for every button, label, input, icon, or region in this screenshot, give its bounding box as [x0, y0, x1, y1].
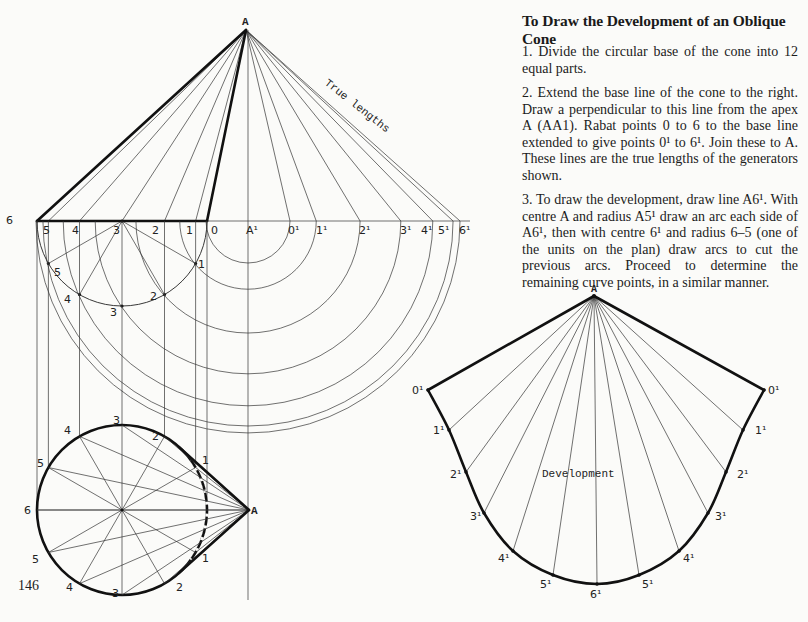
development-point-11	[741, 428, 745, 432]
plan-centre	[120, 508, 123, 511]
true-length-line-1	[246, 30, 316, 221]
development-left-label-2: 2¹	[450, 468, 461, 481]
plan-apex-label: A	[251, 505, 258, 517]
plan-top-label-1: 1	[202, 454, 209, 467]
development-point-9	[706, 511, 710, 515]
development-generator-7	[594, 296, 639, 575]
true-length-line-4	[246, 30, 433, 221]
true-length-label-6: 6¹	[459, 224, 470, 237]
oblique-cone-drawing: A6543210A¹0¹1¹2¹3¹4¹5¹6¹True lengths5432…	[0, 0, 808, 622]
plan-tangent-bottom	[179, 510, 249, 573]
semicircle-label-4: 4	[64, 293, 71, 306]
development-right-label-1: 1¹	[755, 424, 766, 437]
generator-line-2	[165, 30, 247, 221]
development-edge-left	[428, 296, 594, 390]
development-point-4	[511, 549, 515, 553]
development-generator-2	[466, 296, 594, 472]
elevation-apex-label: A	[242, 16, 249, 28]
base-point-label-1: 1	[186, 224, 193, 237]
development-point-0	[426, 388, 430, 392]
base-point-label-0: 0	[211, 224, 218, 237]
base-point-label-3: 3	[113, 224, 120, 237]
development-left-label-3: 3¹	[470, 510, 481, 523]
plan-view	[37, 425, 249, 595]
development-point-7	[637, 573, 641, 577]
plan-top-label-6: 6	[24, 504, 31, 517]
plan-bottom-label-3: 3	[112, 587, 119, 600]
semicircle-label-1: 1	[198, 258, 205, 271]
plan-bottom-label-5: 5	[32, 553, 39, 566]
true-length-line-6	[246, 30, 460, 221]
textbook-page: To Draw the Development of an Oblique Co…	[0, 0, 808, 622]
base-point-label-5: 5	[43, 224, 50, 237]
plan-generator-5	[48, 510, 249, 553]
plan-bottom-label-2: 2	[176, 581, 183, 594]
development-left-label-4: 4¹	[498, 552, 509, 565]
development-left-label-5: 5¹	[540, 578, 551, 591]
true-lengths-annotation: True lengths	[322, 77, 392, 135]
development-point-8	[677, 549, 681, 553]
development-apex-label: A	[591, 284, 597, 295]
true-length-label-5: 5¹	[438, 224, 449, 237]
development-left-label-1: 1¹	[433, 424, 444, 437]
development-left-label-0: 0¹	[412, 384, 423, 397]
development-point-1	[447, 428, 451, 432]
development-right-label-4: 4¹	[683, 552, 694, 565]
development-edge-right	[594, 296, 764, 390]
development-point-10	[724, 470, 728, 474]
plan-generator-3	[122, 510, 249, 595]
plan-generator-8	[80, 436, 250, 510]
plan-top-label-3: 3	[113, 414, 120, 427]
development-right-label-3: 3¹	[715, 510, 726, 523]
development-point-5	[551, 573, 555, 577]
development-caption: Development	[542, 468, 615, 480]
plan-bottom-label-4: 4	[66, 581, 73, 594]
development-point-6	[595, 582, 599, 586]
development-generator-10	[594, 296, 726, 472]
development-right-label-0: 0¹	[768, 384, 779, 397]
plan-top-label-4: 4	[64, 424, 71, 437]
plan-generator-7	[48, 468, 249, 511]
plan-bottom-label-1: 1	[202, 552, 209, 565]
cone-outline-left	[37, 30, 246, 221]
semicircle-label-5: 5	[54, 266, 61, 279]
development-bottom-label: 6¹	[590, 588, 601, 601]
plan-tangent-top	[179, 447, 249, 510]
true-length-label-3: 3¹	[400, 224, 411, 237]
true-length-label-2: 2¹	[359, 224, 370, 237]
development-right-label-2: 2¹	[737, 468, 748, 481]
development-generator-6	[594, 296, 597, 584]
plan-top-label-5: 5	[37, 457, 44, 470]
plan-top-label-2: 2	[152, 430, 159, 443]
a1-foot-label: A¹	[246, 224, 258, 237]
development-generator-1	[449, 296, 594, 430]
development-right-label-5: 5¹	[642, 578, 653, 591]
true-length-line-0	[246, 30, 290, 221]
plan-generator-9	[122, 425, 249, 510]
development-point-12	[762, 388, 766, 392]
base-point-label-4: 4	[72, 224, 79, 237]
development-view	[426, 294, 766, 586]
development-point-3	[482, 511, 486, 515]
plan-generator-4	[80, 510, 250, 584]
base-point-label-2: 2	[152, 224, 159, 237]
development-point-2	[464, 470, 468, 474]
true-length-label-0: 0¹	[288, 224, 299, 237]
base-point-label-6: 6	[6, 214, 13, 227]
true-length-label-1: 1¹	[316, 224, 327, 237]
semicircle-label-3: 3	[110, 306, 117, 319]
semicircle-radial-5	[48, 221, 122, 264]
semicircle-label-2: 2	[150, 290, 157, 303]
development-generator-5	[553, 296, 594, 575]
true-length-line-5	[246, 30, 453, 221]
true-length-label-4: 4¹	[421, 224, 432, 237]
true-length-line-2	[246, 30, 360, 221]
